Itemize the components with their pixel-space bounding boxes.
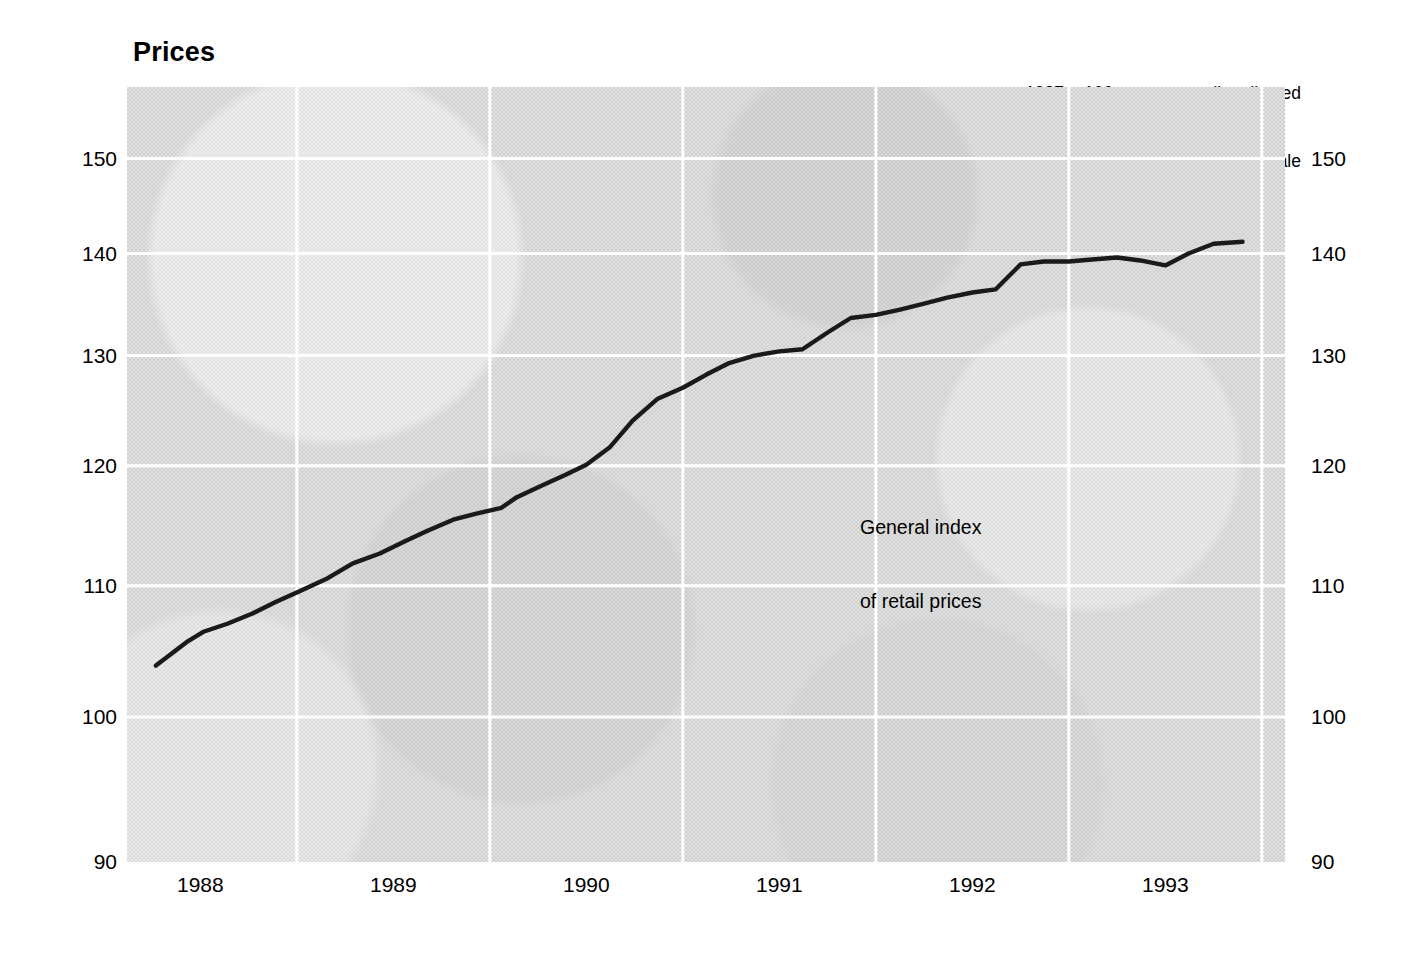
plot-area: General index of retail prices [127, 87, 1285, 862]
y-axis-right-tick-130: 130 [1311, 345, 1346, 366]
x-axis-tick-1991: 1991 [756, 874, 803, 895]
y-axis-left-tick-110: 110 [84, 575, 117, 596]
page-title: Prices [133, 38, 215, 66]
y-axis-left-tick-130: 130 [82, 345, 117, 366]
y-axis-right-tick-110: 110 [1311, 575, 1344, 596]
y-axis-left-tick-90: 90 [94, 851, 117, 872]
y-axis-right-tick-140: 140 [1311, 243, 1346, 264]
x-axis-tick-1993: 1993 [1142, 874, 1189, 895]
y-axis-right-tick-100: 100 [1311, 706, 1346, 727]
y-axis-left-tick-120: 120 [82, 455, 117, 476]
series-retail-price-index [127, 87, 1285, 862]
y-axis-right-tick-90: 90 [1311, 851, 1334, 872]
x-axis-tick-1989: 1989 [370, 874, 417, 895]
series-annotation-line-2: of retail prices [860, 589, 981, 614]
y-axis-right-tick-120: 120 [1311, 455, 1346, 476]
y-axis-left-tick-150: 150 [82, 148, 117, 169]
y-axis-right-tick-150: 150 [1311, 148, 1346, 169]
x-axis-tick-1990: 1990 [563, 874, 610, 895]
price-index-chart-figure: Prices 1987 = 100 not seasonally adjuste… [0, 0, 1418, 959]
x-axis-tick-1988: 1988 [177, 874, 224, 895]
series-annotation-label: General index of retail prices [860, 466, 981, 663]
y-axis-left-tick-140: 140 [82, 243, 117, 264]
x-axis-tick-1992: 1992 [949, 874, 996, 895]
y-axis-left-tick-100: 100 [82, 706, 117, 727]
series-annotation-line-1: General index [860, 515, 981, 540]
